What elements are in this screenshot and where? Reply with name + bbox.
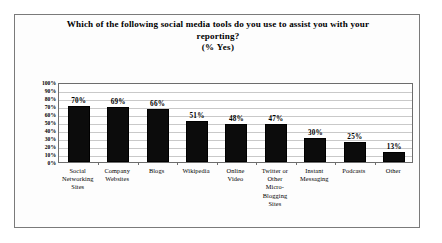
chart-title-line-2: reporting? bbox=[15, 31, 421, 43]
x-axis-category-line: Wikipedia bbox=[176, 167, 215, 175]
x-axis-category-line: Networking bbox=[58, 175, 97, 183]
x-axis-category-label: CompanyWebsites bbox=[97, 167, 136, 183]
x-axis-category-line: Blogging bbox=[255, 192, 294, 200]
x-axis-tick bbox=[296, 162, 297, 165]
x-axis-category-line: Sites bbox=[58, 183, 97, 191]
y-tick-label: 50% bbox=[15, 120, 56, 126]
bar[interactable] bbox=[107, 107, 129, 162]
y-tick-label: 100% bbox=[15, 80, 56, 86]
y-tick-label: 20% bbox=[15, 144, 56, 150]
x-axis-category-label: InstantMessaging bbox=[295, 167, 334, 183]
chart-subtitle: (% Yes) bbox=[15, 42, 421, 54]
bar-value-label: 48% bbox=[229, 115, 244, 123]
bar-value-label: 30% bbox=[308, 129, 323, 137]
y-tick-label: 40% bbox=[15, 128, 56, 134]
x-axis-category-label: Podcasts bbox=[334, 167, 373, 175]
bar[interactable] bbox=[383, 152, 405, 162]
chart-title-block: Which of the following social media tool… bbox=[15, 19, 421, 54]
bar[interactable] bbox=[68, 106, 90, 162]
bar-slot: 70% bbox=[59, 84, 98, 162]
x-axis-category-line: Websites bbox=[97, 175, 136, 183]
x-axis-labels: SocialNetworkingSitesCompanyWebsitesBlog… bbox=[58, 167, 413, 227]
x-axis-tick bbox=[138, 162, 139, 165]
chart-title-line-1: Which of the following social media tool… bbox=[15, 19, 421, 31]
x-axis-category-line: Company bbox=[97, 167, 136, 175]
bar-value-label: 70% bbox=[71, 97, 86, 105]
bar-slot: 48% bbox=[217, 84, 256, 162]
x-axis-category-label: Other bbox=[374, 167, 413, 175]
x-axis-category-line: Other bbox=[255, 175, 294, 183]
x-axis-category-line: Sites bbox=[255, 200, 294, 208]
bar[interactable] bbox=[344, 142, 366, 162]
bar-value-label: 47% bbox=[268, 115, 283, 123]
bar-value-label: 13% bbox=[387, 143, 402, 151]
bar-slot: 25% bbox=[335, 84, 374, 162]
y-tick-label: 30% bbox=[15, 136, 56, 142]
y-axis-labels: 100%90%80%70%60%50%40%30%20%10%0% bbox=[15, 83, 56, 163]
bar-slot: 47% bbox=[256, 84, 295, 162]
x-axis-tick bbox=[375, 162, 376, 165]
bar-value-label: 51% bbox=[190, 112, 205, 120]
bar[interactable] bbox=[147, 109, 169, 162]
x-axis-category-label: OnlineVideo bbox=[216, 167, 255, 183]
bar-slot: 30% bbox=[296, 84, 335, 162]
x-axis-category-label: Blogs bbox=[137, 167, 176, 175]
x-axis-category-line: Podcasts bbox=[334, 167, 373, 175]
y-tick-label: 90% bbox=[15, 88, 56, 94]
bar[interactable] bbox=[304, 138, 326, 162]
y-tick-label: 70% bbox=[15, 104, 56, 110]
x-axis-category-line: Instant bbox=[295, 167, 334, 175]
bar[interactable] bbox=[225, 124, 247, 162]
x-axis-tick bbox=[98, 162, 99, 165]
bar-value-label: 25% bbox=[347, 133, 362, 141]
bar-value-label: 69% bbox=[111, 98, 126, 106]
x-axis-tick bbox=[177, 162, 178, 165]
y-tick-label: 10% bbox=[15, 152, 56, 158]
x-axis-tick bbox=[335, 162, 336, 165]
bar-slot: 51% bbox=[177, 84, 216, 162]
x-axis-category-line: Micro- bbox=[255, 183, 294, 191]
bar-value-label: 66% bbox=[150, 100, 165, 108]
x-axis-category-line: Blogs bbox=[137, 167, 176, 175]
bar[interactable] bbox=[186, 121, 208, 162]
x-axis-category-line: Other bbox=[374, 167, 413, 175]
bar-slot: 69% bbox=[98, 84, 137, 162]
y-tick-label: 0% bbox=[15, 160, 56, 166]
y-tick-label: 80% bbox=[15, 96, 56, 102]
x-axis-tick bbox=[256, 162, 257, 165]
x-axis-category-label: Wikipedia bbox=[176, 167, 215, 175]
x-axis-category-label: SocialNetworkingSites bbox=[58, 167, 97, 192]
y-tick-label: 60% bbox=[15, 112, 56, 118]
x-axis-category-line: Social bbox=[58, 167, 97, 175]
x-axis-category-line: Twitter or bbox=[255, 167, 294, 175]
x-axis-tick bbox=[217, 162, 218, 165]
x-axis-category-line: Online bbox=[216, 167, 255, 175]
plot-area: 70%69%66%51%48%47%30%25%13% bbox=[58, 83, 413, 163]
bar-slot: 66% bbox=[138, 84, 177, 162]
bar[interactable] bbox=[265, 124, 287, 162]
chart-figure: Which of the following social media tool… bbox=[14, 14, 420, 228]
x-axis-category-label: Twitter orOtherMicro-BloggingSites bbox=[255, 167, 294, 208]
bar-slot: 13% bbox=[375, 84, 414, 162]
x-axis-category-line: Messaging bbox=[295, 175, 334, 183]
x-axis-category-line: Video bbox=[216, 175, 255, 183]
